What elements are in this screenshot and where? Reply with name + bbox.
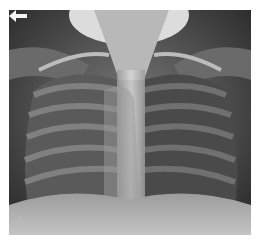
arrow-left-icon [9, 10, 27, 22]
panel-label: A [16, 214, 23, 226]
radiograph-drawing [9, 10, 251, 235]
chest-xray-image: A [9, 10, 251, 235]
